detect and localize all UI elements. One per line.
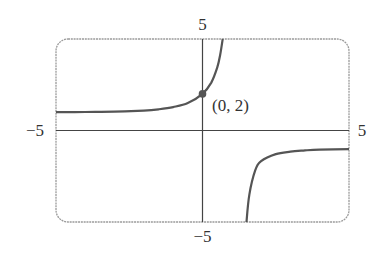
curve-branch	[247, 149, 350, 222]
curve-branch	[56, 39, 223, 112]
x-max-label: 5	[358, 121, 367, 140]
x-min-label: −5	[26, 121, 44, 140]
highlighted-point	[199, 90, 207, 98]
y-max-label: 5	[198, 15, 207, 34]
point-label: (0, 2)	[212, 96, 249, 115]
y-min-label: −5	[193, 227, 211, 246]
function-graph: 5 −5 −5 5 (0, 2)	[0, 0, 380, 254]
